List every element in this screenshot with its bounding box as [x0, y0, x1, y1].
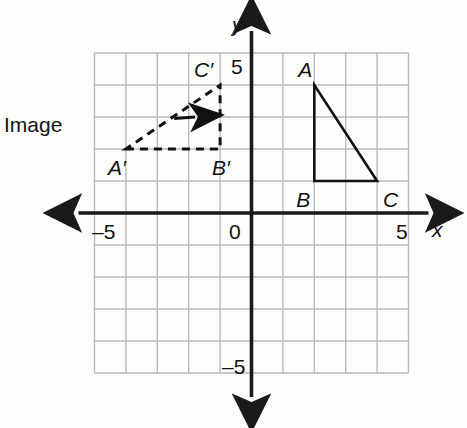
x-tick-minus-5: –5	[92, 221, 115, 242]
y-axis-label: y	[232, 14, 243, 35]
image-callout-label: Image	[4, 114, 62, 135]
y-tick-minus-5: –5	[222, 356, 245, 377]
vertex-label-B: B	[296, 189, 310, 210]
callout-leader	[174, 117, 195, 119]
vertex-label-Bprime: B′	[212, 157, 230, 178]
x-tick-5: 5	[396, 221, 408, 242]
vertex-label-Cprime: C′	[194, 59, 213, 80]
y-tick-5: 5	[231, 56, 243, 77]
vertex-label-C: C	[383, 189, 398, 210]
x-axis-label: x	[432, 219, 443, 240]
origin-label: 0	[229, 221, 241, 242]
axis-lines	[79, 31, 429, 397]
vertex-label-Aprime: A′	[108, 157, 126, 178]
vertex-label-A: A	[298, 59, 312, 80]
callout-leader-line	[174, 117, 195, 119]
coordinate-plane-figure: y x 5 –5 –5 5 0 Image ABCA′B′C′	[0, 0, 467, 428]
